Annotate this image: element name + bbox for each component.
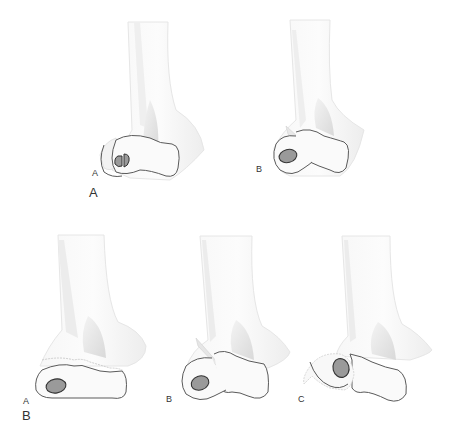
- subfigure-label-a-b: B: [256, 165, 262, 174]
- fracture-diagram: [0, 0, 452, 433]
- subfigure-label-b-c: C: [298, 395, 305, 404]
- elbow-illustration-b-c: [304, 236, 432, 401]
- elbow-illustration-a-b: [274, 20, 364, 176]
- elbow-illustration-a-a: [100, 22, 204, 180]
- elbow-illustration-b-a: [36, 235, 146, 398]
- subfigure-label-b-b: B: [166, 395, 172, 404]
- panel-label-a: A: [89, 186, 98, 199]
- panel-label-b: B: [22, 409, 31, 422]
- subfigure-label-a-a: A: [92, 169, 98, 178]
- subfigure-label-b-a: A: [23, 397, 29, 406]
- elbow-illustration-b-b: [182, 236, 290, 400]
